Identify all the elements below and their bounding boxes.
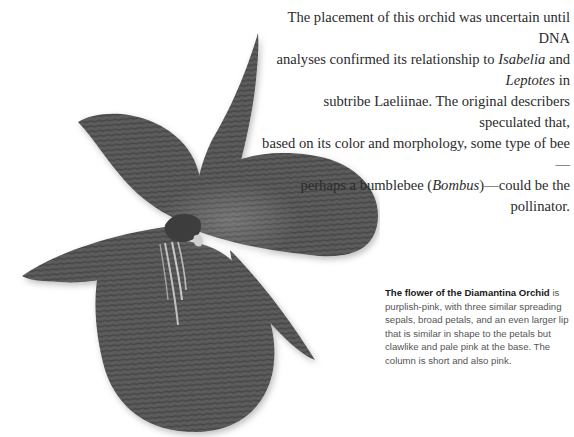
intro-text: perhaps a bumblebee ( (300, 177, 432, 193)
intro-line-2: analyses confirmed its relationship to I… (262, 49, 570, 91)
intro-text: analyses confirmed its relationship to (277, 51, 499, 67)
caption-body: is purplish-pink, with three similar spr… (385, 287, 568, 366)
caption-title: The flower of the Diamantina Orchid (385, 287, 550, 298)
intro-paragraph: The placement of this orchid was uncerta… (262, 7, 570, 217)
intro-line-4: based on its color and morphology, some … (262, 133, 570, 175)
genus-bombus: Bombus (432, 177, 479, 193)
intro-text: and (545, 51, 570, 67)
intro-text: )—could be the pollinator. (479, 177, 570, 214)
image-caption: The flower of the Diamantina Orchid is p… (385, 286, 570, 368)
genus-isabelia: Isabelia (498, 51, 545, 67)
intro-line-5: perhaps a bumblebee (Bombus)—could be th… (262, 175, 570, 217)
intro-text: in (555, 72, 570, 88)
intro-line-1: The placement of this orchid was uncerta… (262, 7, 570, 49)
genus-leptotes: Leptotes (506, 72, 555, 88)
intro-line-3: subtribe Laeliinae. The original describ… (262, 91, 570, 133)
